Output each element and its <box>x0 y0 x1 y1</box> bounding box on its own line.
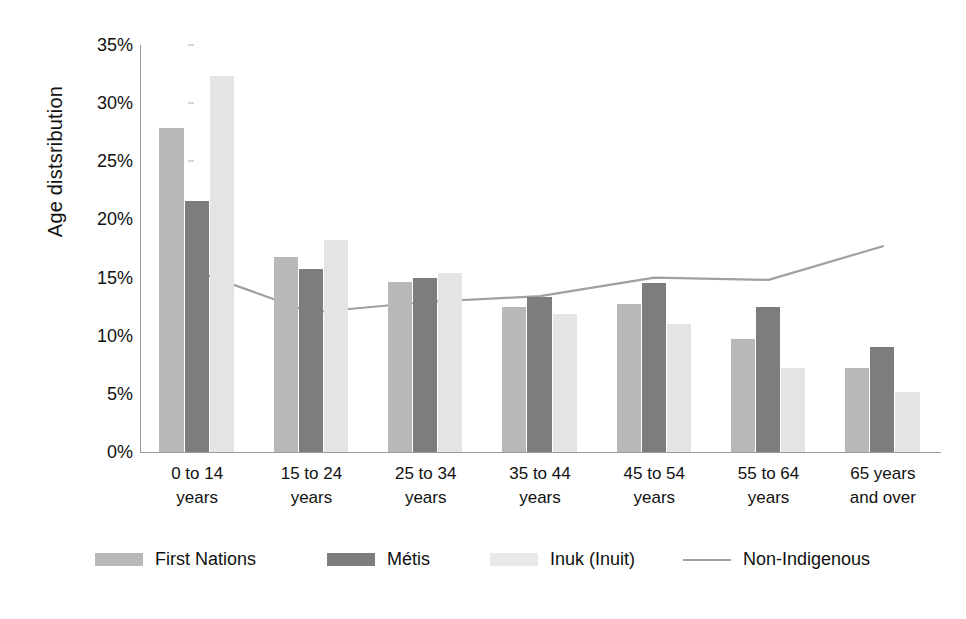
bar-group <box>617 45 692 452</box>
y-axis-tick-label: 35% <box>63 35 133 56</box>
y-axis-tick-labels: 35%30%25%20%15%10%5%0% <box>55 45 133 452</box>
bar-group <box>731 45 806 452</box>
x-axis-category-labels: 0 to 14years15 to 24years25 to 34years35… <box>140 462 940 522</box>
chart-legend: First NationsMétisInuk (Inuit)Non-Indige… <box>95 546 885 576</box>
y-axis-tick-label: 10% <box>63 325 133 346</box>
y-axis-tick-label: 30% <box>63 93 133 114</box>
x-axis-category-label: 25 to 34years <box>369 462 483 510</box>
legend-item[interactable]: First Nations <box>95 546 256 572</box>
bar-inuk <box>895 392 919 452</box>
legend-swatch <box>95 553 143 566</box>
bar-inuk <box>438 273 462 452</box>
y-axis-tick-label: 5% <box>63 383 133 404</box>
bar-group <box>845 45 920 452</box>
y-axis-tick-label: 20% <box>63 209 133 230</box>
bar-metis <box>870 347 894 452</box>
bar-group <box>388 45 463 452</box>
legend-swatch <box>490 553 538 566</box>
bar-first-nations <box>388 282 412 452</box>
plot-area <box>140 45 940 452</box>
legend-item[interactable]: Métis <box>327 546 430 572</box>
x-axis-category-label: 35 to 44years <box>483 462 597 510</box>
x-axis-category-label: 55 to 64years <box>711 462 825 510</box>
bar-first-nations <box>274 257 298 452</box>
bar-inuk <box>781 368 805 452</box>
x-axis-category-label: 0 to 14years <box>140 462 254 510</box>
bar-metis <box>299 269 323 452</box>
legend-item[interactable]: Inuk (Inuit) <box>490 546 635 572</box>
legend-label: Non-Indigenous <box>743 549 870 570</box>
bar-inuk <box>210 76 234 452</box>
x-axis-line <box>140 452 941 453</box>
bar-first-nations <box>731 339 755 452</box>
x-axis-category-label: 15 to 24years <box>254 462 368 510</box>
age-distribution-chart: Age distsribution 35%30%25%20%15%10%5%0%… <box>0 0 966 619</box>
x-axis-category-label: 45 to 54years <box>597 462 711 510</box>
bar-group <box>274 45 349 452</box>
y-axis-tick-label: 0% <box>63 442 133 463</box>
bar-metis <box>527 297 551 452</box>
bar-metis <box>756 307 780 452</box>
bar-inuk <box>553 314 577 452</box>
y-axis-tick-label: 15% <box>63 267 133 288</box>
bar-inuk <box>324 240 348 452</box>
legend-item[interactable]: Non-Indigenous <box>683 546 870 572</box>
bar-group <box>502 45 577 452</box>
bar-metis <box>642 283 666 452</box>
legend-label: Métis <box>387 549 430 570</box>
legend-label: Inuk (Inuit) <box>550 549 635 570</box>
legend-swatch <box>327 553 375 566</box>
bar-metis <box>185 201 209 452</box>
bar-first-nations <box>159 128 183 452</box>
bar-first-nations <box>617 304 641 452</box>
bar-inuk <box>667 324 691 452</box>
legend-line-marker <box>683 553 731 566</box>
bar-first-nations <box>502 307 526 452</box>
bar-metis <box>413 278 437 452</box>
x-axis-category-label: 65 yearsand over <box>826 462 940 510</box>
bar-first-nations <box>845 368 869 452</box>
y-axis-tick-label: 25% <box>63 151 133 172</box>
legend-label: First Nations <box>155 549 256 570</box>
bar-group <box>159 45 234 452</box>
